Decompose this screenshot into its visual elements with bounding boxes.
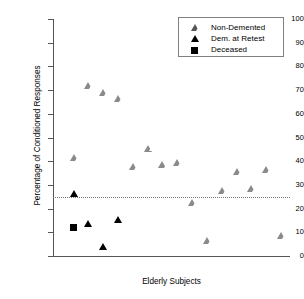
- data-point: [247, 185, 255, 192]
- legend-marker-icon: [191, 46, 201, 55]
- y-tick-label: 30: [260, 181, 304, 189]
- y-tick-label: 0: [260, 252, 304, 260]
- y-tick-mark: [48, 185, 53, 186]
- data-point: [233, 168, 241, 175]
- data-point: [144, 145, 152, 152]
- data-point: [84, 220, 92, 227]
- y-axis-title: Percentage of Conditioned Responses: [33, 36, 42, 236]
- data-point: [84, 82, 92, 89]
- data-point: [129, 163, 137, 170]
- data-point: [203, 237, 211, 244]
- data-point: [218, 187, 226, 194]
- scatter-chart: 0102030405060708090100 Percentage of Con…: [0, 0, 304, 299]
- y-tick-mark: [48, 90, 53, 91]
- y-tick-mark: [48, 66, 53, 67]
- legend-label: Dem. at Retest: [211, 34, 264, 43]
- y-tick-mark: [48, 19, 53, 20]
- y-tick-label: 20: [260, 205, 304, 213]
- data-point: [70, 224, 77, 231]
- y-tick-label: 60: [260, 110, 304, 118]
- y-tick-label: 70: [260, 86, 304, 94]
- legend-item: Deceased: [179, 44, 285, 56]
- chart-legend: Non-DementedDem. at RetestDeceased: [178, 17, 284, 57]
- legend-marker-icon: [191, 24, 201, 33]
- y-tick-mark: [48, 43, 53, 44]
- data-point: [173, 159, 181, 166]
- data-point: [70, 190, 78, 197]
- y-tick-label: 80: [260, 62, 304, 70]
- data-point: [114, 95, 122, 102]
- y-tick-mark: [48, 161, 53, 162]
- data-point: [70, 154, 78, 161]
- x-axis-line: [53, 256, 290, 257]
- legend-label: Non-Demented: [211, 23, 265, 32]
- y-tick-mark: [48, 209, 53, 210]
- data-point: [99, 89, 107, 96]
- y-tick-mark: [48, 232, 53, 233]
- data-point: [277, 232, 285, 239]
- data-point: [188, 199, 196, 206]
- data-point: [158, 161, 166, 168]
- data-point: [114, 216, 122, 223]
- data-point: [99, 243, 107, 250]
- y-axis-line: [53, 19, 54, 257]
- y-tick-label: 50: [260, 134, 304, 142]
- y-tick-mark: [48, 138, 53, 139]
- y-tick-label: 40: [260, 157, 304, 165]
- y-tick-mark: [48, 256, 53, 257]
- x-axis-title: Elderly Subjects: [53, 277, 290, 286]
- legend-label: Deceased: [211, 45, 247, 54]
- data-point: [262, 166, 270, 173]
- y-tick-mark: [48, 114, 53, 115]
- legend-marker-icon: [191, 35, 201, 44]
- reference-line: [53, 197, 290, 198]
